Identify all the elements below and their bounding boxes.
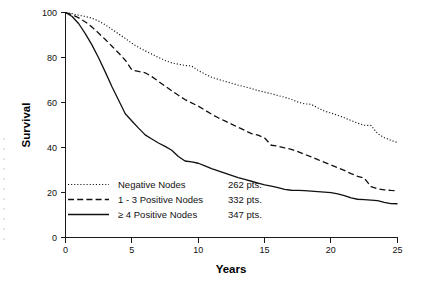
y-tick-label: 0 [52, 233, 57, 243]
x-axis: 0 5 10 15 20 25 Years [63, 238, 403, 276]
y-tick-label: 20 [47, 188, 57, 198]
y-tick-label: 60 [47, 98, 57, 108]
y-axis: 100 80 60 40 20 0 Survival [20, 8, 66, 243]
scan-edge-artifacts [3, 138, 5, 240]
y-tick-label: 40 [47, 143, 57, 153]
legend-row-4-plus-positive-nodes: ≥ 4 Positive Nodes 347 pts. [68, 209, 262, 220]
legend-label: Negative Nodes [118, 179, 186, 190]
curve-negative-nodes [66, 13, 398, 143]
y-tick-label: 80 [47, 53, 57, 63]
x-tick-label: 0 [63, 245, 68, 255]
legend-row-1-3-positive-nodes: 1 - 3 Positive Nodes 332 pts. [68, 194, 262, 205]
kaplan-meier-chart: 100 80 60 40 20 0 Survival 0 5 [0, 0, 433, 284]
y-axis-ticks [61, 13, 66, 238]
x-tick-label: 15 [259, 245, 269, 255]
legend-label: 1 - 3 Positive Nodes [118, 194, 203, 205]
survival-curve-figure: 100 80 60 40 20 0 Survival 0 5 [0, 0, 433, 284]
legend-count: 262 pts. [228, 179, 262, 190]
curves-group [66, 13, 398, 204]
y-axis-tick-labels: 100 80 60 40 20 0 [42, 8, 57, 243]
x-axis-title: Years [216, 263, 247, 275]
curve-4-plus-positive-nodes [66, 13, 398, 204]
x-tick-label: 5 [129, 245, 134, 255]
curve-1-3-positive-nodes [66, 13, 398, 191]
y-tick-label: 100 [42, 8, 57, 18]
legend-count: 332 pts. [228, 194, 262, 205]
y-axis-title: Survival [20, 103, 32, 148]
legend-label: ≥ 4 Positive Nodes [118, 209, 197, 220]
x-tick-label: 25 [392, 245, 402, 255]
x-axis-tick-labels: 0 5 10 15 20 25 [63, 245, 403, 255]
legend-row-negative-nodes: Negative Nodes 262 pts. [68, 179, 262, 190]
legend-count: 347 pts. [228, 209, 262, 220]
x-tick-label: 10 [193, 245, 203, 255]
legend: Negative Nodes 262 pts. 1 - 3 Positive N… [68, 179, 262, 220]
x-tick-label: 20 [326, 245, 336, 255]
x-axis-ticks [66, 238, 398, 243]
